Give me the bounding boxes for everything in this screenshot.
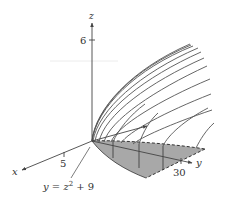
y-tick-label: 30 [173, 167, 186, 178]
x-axis-label: x [12, 166, 18, 177]
oblique-arrow [92, 126, 147, 141]
shaded-region [92, 141, 205, 178]
x-tick-label: 5 [60, 158, 66, 169]
z-tick-label: 6 [80, 35, 86, 46]
surface-figure: z 6 x 5 y 30 y = z2 + 9 [0, 0, 227, 202]
x-axis [22, 141, 92, 170]
curve-label-leader [71, 147, 90, 178]
y-axis-label: y [195, 157, 202, 168]
curve-equation-label: y = z2 + 9 [42, 180, 94, 192]
z-axis-label: z [88, 11, 94, 21]
surface-curves [92, 44, 214, 148]
